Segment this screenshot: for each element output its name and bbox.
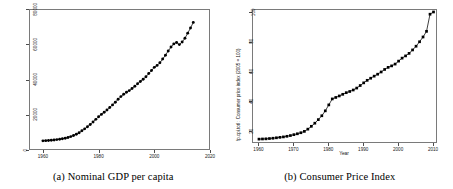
data-point-marker	[351, 89, 354, 92]
data-point-marker	[404, 55, 407, 58]
data-series-line	[43, 22, 193, 140]
data-point-marker	[292, 133, 295, 136]
data-point-marker	[313, 122, 316, 125]
data-point-marker	[282, 136, 285, 139]
y-tick-label: 40000	[34, 73, 39, 86]
y-tick-label: 20000	[34, 108, 39, 121]
data-point-marker	[114, 101, 117, 104]
data-point-marker	[67, 136, 70, 139]
y-tick-label: 20	[249, 129, 254, 134]
figure-container: 1960198020002020020000400006000080000 (a…	[0, 0, 453, 189]
data-series-line	[258, 12, 433, 139]
data-point-marker	[108, 106, 111, 109]
y-tick-mark	[26, 9, 29, 10]
data-point-marker	[344, 91, 347, 94]
data-point-marker	[337, 95, 340, 98]
data-point-marker	[103, 111, 106, 114]
data-point-marker	[316, 118, 319, 121]
data-point-marker	[181, 41, 184, 44]
data-point-marker	[330, 98, 333, 101]
data-point-marker	[119, 95, 122, 98]
data-point-marker	[106, 109, 109, 112]
data-point-marker	[131, 87, 134, 90]
x-tick-label: 2020	[205, 155, 215, 160]
data-point-marker	[393, 63, 396, 66]
data-point-marker	[432, 11, 435, 14]
data-point-marker	[122, 93, 125, 96]
data-point-marker	[94, 118, 97, 121]
x-tick-label: 2000	[149, 155, 159, 160]
data-point-marker	[383, 68, 386, 71]
data-point-marker	[303, 130, 306, 133]
panel-consumer-price-index: 19601970198019902000201020406080100 Year…	[227, 0, 453, 189]
data-point-marker	[400, 57, 403, 60]
data-point-marker	[170, 46, 173, 49]
data-point-marker	[172, 42, 175, 45]
data-point-marker	[92, 121, 95, 124]
data-point-marker	[111, 103, 114, 106]
data-point-marker	[156, 64, 159, 67]
data-point-marker	[175, 41, 178, 44]
data-point-marker	[50, 139, 53, 142]
data-point-marker	[80, 129, 83, 132]
data-point-marker	[83, 127, 86, 130]
data-point-marker	[365, 79, 368, 82]
data-point-marker	[97, 115, 100, 118]
data-point-marker	[425, 30, 428, 33]
data-point-marker	[69, 135, 72, 138]
y-tick-label: 60	[249, 69, 254, 74]
plot-canvas-gdp	[29, 9, 210, 150]
y-tick-label: 40	[249, 99, 254, 104]
data-point-marker	[278, 136, 281, 139]
data-point-marker	[150, 69, 153, 72]
caption-panel-b: (b) Consumer Price Index	[227, 171, 453, 182]
data-point-marker	[261, 138, 264, 141]
y-axis-title-cpi: fp.cpi.totl : Consumer price index (2005…	[237, 49, 242, 141]
data-point-marker	[421, 36, 424, 39]
data-point-marker	[390, 65, 393, 68]
data-point-marker	[47, 139, 50, 142]
caption-panel-a: (a) Nominal GDP per capita	[0, 171, 227, 182]
data-point-marker	[379, 71, 382, 74]
data-point-marker	[264, 137, 267, 140]
data-point-marker	[117, 98, 120, 101]
data-point-marker	[133, 85, 136, 88]
x-axis-title-cpi: Year	[252, 152, 437, 157]
data-point-marker	[55, 138, 58, 141]
data-point-marker	[376, 73, 379, 76]
y-tick-mark	[26, 80, 29, 81]
data-point-marker	[125, 91, 128, 94]
data-point-marker	[41, 139, 44, 142]
data-point-marker	[186, 32, 189, 35]
data-point-marker	[275, 136, 278, 139]
data-point-marker	[369, 77, 372, 80]
data-point-marker	[428, 13, 431, 16]
data-point-marker	[348, 90, 351, 93]
data-point-marker	[128, 89, 131, 92]
data-point-marker	[145, 75, 148, 78]
panel-nominal-gdp: 1960198020002020020000400006000080000 (a…	[0, 0, 227, 189]
data-point-marker	[142, 78, 145, 81]
data-point-marker	[64, 137, 67, 140]
y-tick-label: 100	[252, 8, 257, 16]
data-point-marker	[58, 138, 61, 141]
data-point-marker	[309, 125, 312, 128]
data-point-marker	[158, 61, 161, 64]
data-point-marker	[147, 72, 150, 75]
data-point-marker	[167, 50, 170, 53]
data-point-marker	[362, 82, 365, 85]
data-point-marker	[411, 49, 414, 52]
data-point-marker	[161, 58, 164, 61]
x-tick-label: 1960	[38, 155, 48, 160]
data-point-marker	[192, 21, 195, 24]
data-point-marker	[136, 82, 139, 85]
data-point-marker	[44, 139, 47, 142]
data-point-marker	[334, 96, 337, 99]
y-tick-label: 60000	[34, 38, 39, 51]
data-point-marker	[178, 43, 181, 46]
data-point-marker	[285, 135, 288, 138]
data-point-marker	[407, 52, 410, 55]
data-point-marker	[355, 87, 358, 90]
data-point-marker	[268, 137, 271, 140]
data-point-marker	[53, 139, 56, 142]
